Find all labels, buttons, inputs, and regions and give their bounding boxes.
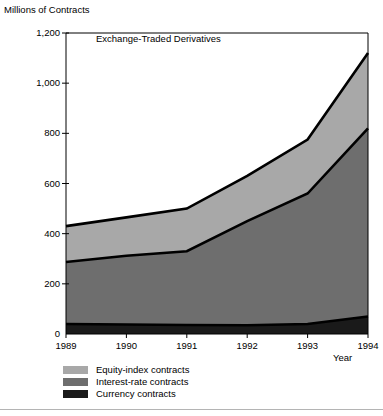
legend-swatch-icon <box>63 390 88 398</box>
y-axis-tick-label: 1,000 <box>8 78 60 88</box>
chart-legend: Equity-index contractsInterest-rate cont… <box>63 364 189 399</box>
y-axis-tick-label: 800 <box>8 128 60 138</box>
legend-item: Equity-index contracts <box>63 364 189 375</box>
chart-container: Millions of Contracts Exchange-Traded De… <box>0 0 383 416</box>
y-axis-tick-label: 400 <box>8 229 60 239</box>
x-axis-tick-label: 1990 <box>104 341 148 351</box>
x-axis-tick-label: 1991 <box>165 341 209 351</box>
y-axis-tick-label: 0 <box>8 329 60 339</box>
y-axis-tick-label: 600 <box>8 179 60 189</box>
x-axis-title: Year <box>333 352 352 363</box>
legend-label: Equity-index contracts <box>96 365 189 375</box>
y-axis-tick-label: 1,200 <box>8 28 60 38</box>
plot-area <box>0 0 383 416</box>
bottom-divider <box>0 409 383 410</box>
y-axis-tick-label: 200 <box>8 279 60 289</box>
x-axis-tick-label: 1992 <box>225 341 269 351</box>
legend-label: Currency contracts <box>96 389 176 399</box>
x-axis-tick-label: 1989 <box>44 341 88 351</box>
legend-swatch-icon <box>63 378 88 386</box>
legend-item: Currency contracts <box>63 388 189 399</box>
x-axis-tick-label: 1994 <box>346 341 383 351</box>
legend-item: Interest-rate contracts <box>63 376 189 387</box>
legend-swatch-icon <box>63 366 88 374</box>
x-axis-tick-label: 1993 <box>286 341 330 351</box>
legend-label: Interest-rate contracts <box>96 377 188 387</box>
